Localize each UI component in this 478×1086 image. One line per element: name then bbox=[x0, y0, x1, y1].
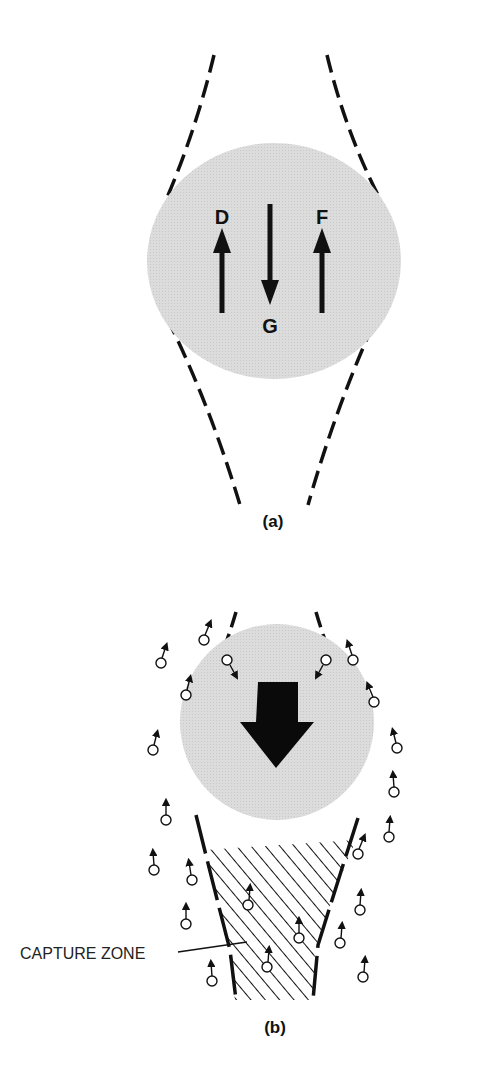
force-g-label: G bbox=[262, 315, 278, 337]
panel-a: D G F (a) bbox=[147, 55, 401, 531]
panel-a-label: (a) bbox=[263, 512, 284, 531]
panel-b-label: (b) bbox=[264, 1018, 286, 1037]
force-d-label: D bbox=[215, 206, 229, 228]
diagram-canvas: D G F (a) bbox=[0, 0, 478, 1086]
capture-zone-label: CAPTURE ZONE bbox=[20, 945, 145, 962]
bubble-sphere bbox=[147, 143, 401, 379]
force-f-label: F bbox=[316, 206, 328, 228]
panel-b: CAPTURE ZONE (b) bbox=[20, 612, 402, 1037]
